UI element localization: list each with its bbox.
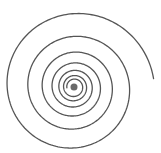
spiral-diagram bbox=[0, 0, 161, 153]
spiral-svg bbox=[0, 0, 161, 153]
spiral-core bbox=[71, 84, 78, 91]
spiral-curve bbox=[7, 14, 154, 149]
